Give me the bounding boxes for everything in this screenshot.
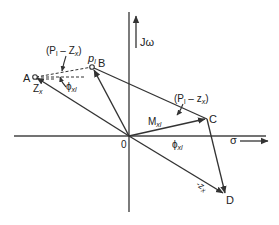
point-c-label: C [209, 113, 217, 125]
phi-xl-bottom-label: ϕxl [172, 139, 183, 151]
point-b-marker [90, 65, 95, 70]
neg-zx-label: -zx [194, 179, 210, 194]
mxl-label: Mxl [148, 116, 162, 128]
vector-o-to-b [94, 70, 129, 136]
construction-lines [36, 56, 183, 115]
point-d-label: D [226, 194, 234, 206]
sigma-axis-label: σ [230, 134, 237, 146]
origin-label: 0 [121, 139, 127, 150]
jw-axis-label: Jω [140, 36, 155, 48]
pl-label: pl [87, 52, 96, 65]
pl-minus-zx-label: (Pl – Zx) [46, 45, 82, 57]
vector-o-to-a [37, 78, 129, 136]
point-b-label: B [98, 57, 105, 69]
pole-zero-vector-diagram: Jω σ 0 A B C D (Pl – Zx) pl Zx ϕxl (Pl –… [0, 0, 279, 225]
point-a-label: A [23, 72, 31, 84]
vector-c-to-d [207, 119, 225, 193]
vector-o-to-c [129, 119, 205, 136]
pl-minus-zx-right-label: (Pl – zx) [174, 93, 209, 105]
point-a-marker [33, 75, 38, 80]
zx-label: Zx [33, 83, 43, 95]
phi-xl-left-label: ϕxl [66, 81, 77, 93]
pl-zx-callout-arrow-icon [62, 56, 66, 71]
